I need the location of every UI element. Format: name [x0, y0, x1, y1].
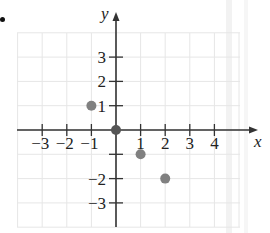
data-point — [136, 149, 146, 159]
scatter-plot: −3−2−11234321−2−3 x y — [0, 0, 270, 233]
data-point — [86, 101, 96, 111]
data-point — [111, 125, 121, 135]
axes — [17, 12, 258, 227]
x-tick-label: 2 — [161, 134, 170, 153]
y-axis-arrow-icon — [113, 12, 120, 21]
y-tick-label: 1 — [98, 97, 107, 116]
data-point — [160, 174, 170, 184]
y-tick-label: −2 — [88, 170, 106, 189]
coordinate-plane-figure: −3−2−11234321−2−3 x y — [0, 0, 270, 233]
y-axis-label: y — [99, 4, 109, 23]
x-tick-label: −2 — [56, 134, 74, 153]
x-tick-label: 4 — [210, 134, 219, 153]
x-tick-label: −1 — [80, 134, 98, 153]
y-tick-label: −3 — [88, 194, 106, 213]
y-tick-label: 3 — [98, 48, 107, 67]
x-tick-label: 3 — [186, 134, 195, 153]
x-tick-label: −3 — [31, 134, 49, 153]
y-tick-label: 2 — [98, 72, 107, 91]
x-axis-label: x — [253, 132, 262, 151]
